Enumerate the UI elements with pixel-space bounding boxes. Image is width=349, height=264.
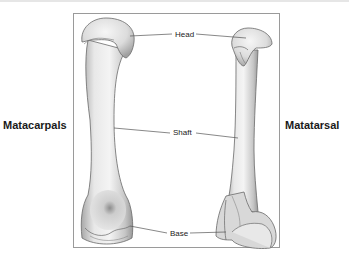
metacarpals-label: Matacarpals bbox=[3, 119, 67, 131]
head-callout: Head bbox=[173, 30, 196, 39]
metatarsal-label: Matatarsal bbox=[285, 119, 339, 131]
base-callout: Base bbox=[168, 229, 190, 238]
metatarsal-bone bbox=[216, 28, 276, 249]
metacarpal-bone bbox=[81, 18, 134, 244]
shaft-callout: Shaft bbox=[171, 128, 194, 137]
